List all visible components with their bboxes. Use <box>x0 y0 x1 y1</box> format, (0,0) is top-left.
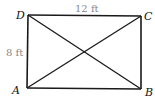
vertex-label-D: D <box>15 9 25 22</box>
vertex-label-B: B <box>144 86 153 99</box>
vertex-label-A: A <box>11 84 20 97</box>
edge-AD <box>27 15 28 88</box>
edge-DC <box>28 15 141 16</box>
vertex-label-C: C <box>144 10 153 23</box>
edge-BA <box>27 88 141 89</box>
diagonals <box>27 15 141 89</box>
dimension-left: 8 ft <box>6 47 23 58</box>
dimension-top: 12 ft <box>75 3 99 14</box>
rectangle-diagram: D C A B 12 ft 8 ft <box>0 0 155 104</box>
